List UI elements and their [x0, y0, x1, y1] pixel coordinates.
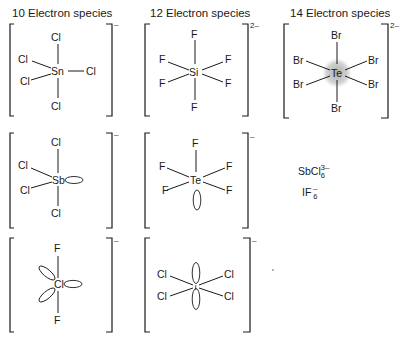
ligand-cl-lower-right: Cl [224, 290, 234, 302]
electron-species-diagram: 10 Electron species 12 Electron species … [0, 0, 410, 343]
left-bracket [10, 24, 14, 116]
charge-label: – [114, 130, 119, 139]
ligand-f-lower-right: F [225, 77, 231, 89]
right-bracket [243, 238, 250, 332]
central-atom-si: Si [189, 66, 198, 78]
charge-label: – [252, 236, 257, 245]
ligand-cl-right: Cl [86, 65, 96, 77]
ligand-f-bottom: F [191, 101, 197, 113]
charge-label: – [250, 132, 255, 141]
ligand-f-top: F [191, 28, 197, 40]
ligand-cl-upper-right: Cl [224, 268, 234, 280]
ligand-f-upper-left: F [159, 53, 165, 65]
central-atom-cl: Cl [54, 278, 64, 290]
ligand-cl-upper-left: Cl [18, 159, 28, 171]
charge-label: – [114, 236, 119, 245]
right-bracket [381, 24, 388, 118]
ligand-f-upper-left: F [159, 160, 165, 172]
central-atom-te: Te [331, 67, 342, 79]
left-bracket [145, 24, 150, 116]
structure-sif6: 2– F F F F F F Si [145, 21, 259, 116]
charge-label: – [114, 20, 119, 29]
ligand-br-lower-right: Br [368, 78, 379, 90]
header-14-electron: 14 Electron species [290, 7, 391, 19]
structure-tef5: – F F F F F Te [145, 132, 255, 228]
central-atom-sn: Sn [51, 65, 64, 77]
lone-pair-lobe-upper [192, 263, 200, 284]
ligand-cl-lower-left: Cl [157, 290, 167, 302]
left-bracket [145, 133, 150, 228]
ligand-br-upper-right: Br [368, 54, 379, 66]
header-12-electron: 12 Electron species [150, 7, 251, 19]
ligand-f-lower-right: F [226, 184, 232, 196]
ligand-f-top: F [192, 137, 198, 149]
ligand-f-lower-left: F [162, 184, 168, 196]
structure-sbcl4: – Cl Cl Cl Cl Sb [10, 130, 119, 228]
ligand-f-upper-right: F [226, 160, 232, 172]
left-bracket [284, 24, 289, 118]
if6-formula: IF6– [302, 184, 318, 201]
ligand-cl-upper-left: Cl [18, 53, 28, 65]
ligand-cl-bottom: Cl [51, 207, 61, 219]
header-10-electron: 10 Electron species [12, 7, 113, 19]
right-bracket [106, 133, 112, 228]
ligand-f-bottom: F [54, 314, 60, 326]
ligand-br-lower-left: Br [293, 78, 304, 90]
structure-clf2: – F F Cl [10, 236, 119, 332]
central-atom-i: I [195, 283, 197, 292]
left-bracket [145, 238, 150, 332]
structure-icl4: – Cl Cl Cl Cl I [145, 236, 257, 332]
ligand-f-top: F [54, 242, 60, 254]
ligand-br-top: Br [331, 29, 342, 41]
left-bracket [10, 133, 14, 228]
structure-sncl5: – Cl Cl Cl Cl Cl Sn [10, 20, 119, 116]
charge-label: 2– [390, 21, 399, 30]
right-bracket [242, 133, 248, 228]
lone-pair-lobe [65, 177, 83, 184]
scan-speck [272, 269, 274, 271]
right-bracket [106, 238, 112, 332]
ligand-br-upper-left: Br [293, 54, 304, 66]
ligand-cl-lower-left: Cl [20, 184, 30, 196]
left-bracket [10, 238, 14, 332]
charge-label: 2– [250, 21, 259, 30]
ligand-br-bottom: Br [331, 102, 342, 114]
structure-tebr6: 2– Br Br Br Br Br Br Te [284, 21, 399, 118]
central-atom-sb: Sb [52, 174, 65, 186]
examples-14-electron: SbCl63– IF6– [298, 163, 330, 201]
ligand-cl-top: Cl [51, 136, 61, 148]
lone-pair-lobe [193, 190, 201, 210]
ligand-f-upper-right: F [225, 53, 231, 65]
ligand-cl-top: Cl [51, 31, 61, 43]
ligand-cl-lower-left: Cl [20, 75, 30, 87]
sbcl6-formula: SbCl63– [298, 163, 330, 180]
right-bracket [242, 24, 248, 116]
central-atom-te: Te [190, 174, 201, 186]
ligand-cl-bottom: Cl [51, 100, 61, 112]
right-bracket [106, 24, 112, 116]
ligand-f-lower-left: F [159, 77, 165, 89]
ligand-cl-upper-left: Cl [157, 268, 167, 280]
lone-pair-lobe-right [64, 280, 82, 287]
